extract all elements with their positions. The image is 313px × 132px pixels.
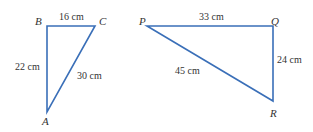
triangle-abc: B C A 16 cm 22 cm 30 cm	[15, 11, 107, 127]
side-pr-label: 45 cm	[175, 65, 200, 76]
side-bc-label: 16 cm	[59, 11, 84, 22]
side-ac-label: 30 cm	[77, 70, 102, 81]
side-ab-label: 22 cm	[15, 61, 40, 72]
triangle-pqr-shape	[147, 26, 273, 101]
vertex-c-label: C	[99, 15, 107, 27]
vertex-a-label: A	[41, 115, 49, 127]
triangle-pqr: P Q R 33 cm 24 cm 45 cm	[138, 11, 302, 119]
side-qr-label: 24 cm	[277, 54, 302, 65]
triangles-diagram: B C A 16 cm 22 cm 30 cm P Q R 33 cm 24 c…	[0, 0, 313, 132]
vertex-b-label: B	[35, 15, 42, 27]
triangle-abc-shape	[47, 26, 95, 112]
side-pq-label: 33 cm	[199, 11, 224, 22]
vertex-p-label: P	[138, 15, 146, 27]
vertex-q-label: Q	[271, 15, 279, 27]
vertex-r-label: R	[269, 107, 277, 119]
